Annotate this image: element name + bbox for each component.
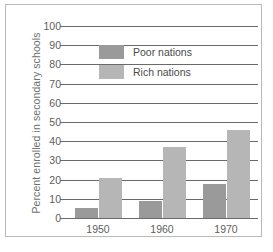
y-axis-tick-label: 40 bbox=[49, 135, 61, 147]
x-axis-tick-label: 1960 bbox=[150, 223, 173, 235]
chart-legend: Poor nations Rich nations bbox=[99, 43, 192, 83]
legend-label-poor-nations: Poor nations bbox=[133, 46, 192, 58]
legend-item-poor-nations: Poor nations bbox=[99, 43, 192, 61]
legend-label-rich-nations: Rich nations bbox=[133, 66, 191, 78]
bar-rich-nations-1960 bbox=[163, 147, 186, 218]
y-axis-tick-label: 30 bbox=[49, 154, 61, 166]
caption-strip bbox=[6, 245, 268, 252]
bar-rich-nations-1950 bbox=[99, 178, 122, 218]
y-axis-tick-label: 0 bbox=[55, 212, 61, 224]
gridline bbox=[66, 103, 258, 104]
y-axis-tick-label: 100 bbox=[43, 20, 61, 32]
legend-item-rich-nations: Rich nations bbox=[99, 63, 192, 81]
y-axis-tick-label: 90 bbox=[49, 39, 61, 51]
chart-figure: Percent enrolled in secondary schools 01… bbox=[0, 0, 273, 252]
bar-rich-nations-1970 bbox=[227, 130, 250, 218]
chart-frame: Percent enrolled in secondary schools 01… bbox=[5, 4, 262, 237]
y-axis-title: Percent enrolled in secondary schools bbox=[30, 13, 42, 233]
y-axis-tick-label: 20 bbox=[49, 174, 61, 186]
x-axis-tick-label: 1950 bbox=[86, 223, 109, 235]
gridline bbox=[66, 122, 258, 123]
legend-swatch-poor-nations bbox=[99, 45, 124, 59]
y-axis-tick-label: 50 bbox=[49, 116, 61, 128]
gridline bbox=[66, 218, 258, 219]
bar-poor-nations-1950 bbox=[75, 208, 98, 218]
gridline bbox=[66, 84, 258, 85]
y-axis-tick-label: 60 bbox=[49, 97, 61, 109]
legend-swatch-rich-nations bbox=[99, 65, 124, 79]
y-axis-tick-label: 70 bbox=[49, 78, 61, 90]
gridline bbox=[66, 26, 258, 27]
bar-poor-nations-1960 bbox=[139, 201, 162, 218]
x-axis-tick-label: 1970 bbox=[214, 223, 237, 235]
y-axis-tick-label: 10 bbox=[49, 193, 61, 205]
y-axis-tick-label: 80 bbox=[49, 58, 61, 70]
bar-poor-nations-1970 bbox=[203, 184, 226, 218]
